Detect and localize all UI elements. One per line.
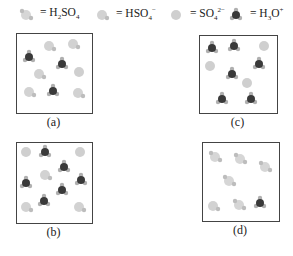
hso4-ion-icon — [93, 6, 113, 22]
so4-ion-icon — [74, 67, 84, 77]
h2so4-molecule-icon — [259, 161, 272, 172]
h3o-ion-icon — [20, 176, 32, 188]
so4-ion-icon — [259, 41, 269, 51]
panel-label-c: (c) — [218, 115, 258, 130]
h3o-ion-icon — [228, 39, 240, 51]
h3o-ion-icon — [253, 57, 265, 69]
hso4-ion-icon — [73, 88, 85, 98]
legend-item-h3o: = H3O+ — [224, 6, 283, 22]
h3o-ion-icon — [56, 183, 68, 195]
h3o-ion-icon — [38, 194, 50, 206]
h3o-ion-icon — [47, 84, 59, 96]
hso4-ion-icon — [97, 10, 109, 20]
h2so4-molecule-icon — [234, 153, 247, 164]
h2so4-molecule-icon — [233, 199, 246, 210]
h3o-ion-icon — [23, 50, 35, 62]
hso4-ion-icon — [68, 39, 80, 49]
panel-c — [199, 35, 278, 114]
h3o-ion-icon — [230, 8, 242, 20]
so4-ion-icon — [167, 6, 187, 22]
legend-label: = SO42− — [190, 6, 225, 22]
legend-item-hso4: = HSO4− — [90, 6, 156, 22]
h3o-ion-icon — [56, 57, 68, 69]
hso4-ion-icon — [21, 202, 33, 212]
h2so4-molecule-icon — [209, 151, 222, 162]
so4-ion-icon — [21, 147, 31, 157]
h3o-ion-icon — [58, 160, 70, 172]
panel-label-b: (b) — [34, 225, 74, 240]
legend-label: = H3O+ — [250, 6, 283, 22]
panel-d — [202, 142, 280, 222]
h3o-ion-icon — [216, 92, 228, 104]
so4-ion-icon — [242, 78, 252, 88]
h3o-ion-icon — [226, 67, 238, 79]
h3o-ion-icon — [39, 145, 51, 157]
h3o-ion-icon — [227, 6, 247, 22]
h3o-ion-icon — [206, 41, 218, 53]
hso4-ion-icon — [208, 201, 220, 211]
h3o-ion-icon — [75, 173, 87, 185]
h2so4-molecule-icon — [20, 9, 33, 20]
hso4-ion-icon — [24, 87, 36, 97]
panel-a — [16, 33, 93, 114]
panel-b — [16, 142, 93, 224]
hso4-ion-icon — [34, 69, 46, 79]
so4-ion-icon — [171, 10, 181, 20]
hso4-ion-icon — [40, 170, 52, 180]
panel-label-d: (d) — [220, 223, 260, 238]
legend-label: = HSO4− — [116, 6, 156, 22]
so4-ion-icon — [205, 61, 215, 71]
legend-item-h2so4: = H2SO4 — [14, 6, 79, 22]
so4-ion-icon — [75, 147, 85, 157]
legend-label: = H2SO4 — [40, 6, 79, 21]
panel-label-a: (a) — [34, 115, 74, 130]
h2so4-molecule-icon — [223, 175, 236, 186]
legend-item-so4: = SO42− — [164, 6, 225, 22]
h2so4-molecule-icon — [17, 6, 37, 22]
hso4-ion-icon — [74, 202, 86, 212]
h3o-ion-icon — [254, 196, 266, 208]
h3o-ion-icon — [245, 92, 257, 104]
hso4-ion-icon — [44, 41, 56, 51]
